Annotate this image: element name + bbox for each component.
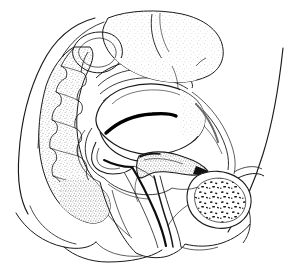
anatomy-diagram-svg [0, 0, 300, 269]
anatomical-figure: Black and white anatomical line drawing … [0, 0, 300, 269]
